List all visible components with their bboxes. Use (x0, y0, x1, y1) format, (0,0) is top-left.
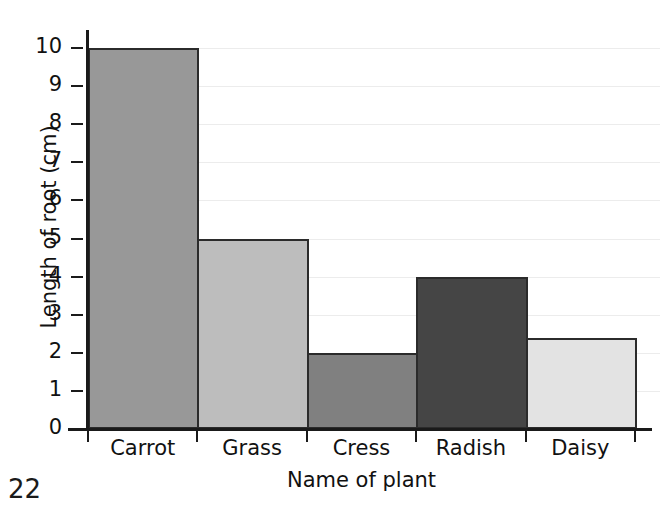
y-axis-tick-label: 0 (16, 415, 62, 439)
bar (88, 48, 199, 429)
y-axis-tick-label: 9 (16, 72, 62, 96)
bar (526, 338, 637, 429)
y-axis-tick (71, 276, 83, 278)
y-axis-tick (71, 390, 83, 392)
y-axis-line (86, 30, 89, 431)
y-axis-tick-label: 7 (16, 148, 62, 172)
bar (307, 353, 418, 429)
x-axis-title: Name of plant (88, 468, 635, 492)
y-axis-tick-label: 2 (16, 339, 62, 363)
y-axis-tick-label: 3 (16, 301, 62, 325)
y-axis-tick-label: 4 (16, 263, 62, 287)
y-axis-tick-label: 8 (16, 110, 62, 134)
y-axis-tick (71, 161, 83, 163)
y-axis-tick (71, 47, 83, 49)
y-axis-tick-label: 6 (16, 186, 62, 210)
y-axis-tick-label: 1 (16, 377, 62, 401)
y-axis-tick (71, 199, 83, 201)
bar (197, 239, 308, 430)
bar-chart-figure: Length of root (cm) 012345678910 CarrotG… (0, 0, 660, 511)
x-axis-category-label: Daisy (510, 436, 650, 460)
y-axis-tick (71, 85, 83, 87)
y-axis-tick-label: 10 (16, 34, 62, 58)
y-axis-tick (71, 123, 83, 125)
plot-area (88, 48, 635, 429)
y-axis-tick (71, 352, 83, 354)
y-axis-tick (71, 314, 83, 316)
bar (416, 277, 527, 429)
bar-group (88, 48, 635, 429)
y-axis-tick (71, 238, 83, 240)
page-number: 22 (8, 474, 41, 504)
y-axis-tick-label: 5 (16, 225, 62, 249)
x-axis-line (68, 428, 652, 431)
y-axis-tick (71, 428, 83, 430)
